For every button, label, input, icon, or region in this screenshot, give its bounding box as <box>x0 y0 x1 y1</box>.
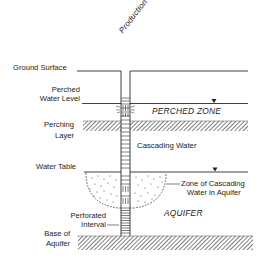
perched-water-level-label-line2: Water Level <box>20 95 80 104</box>
water-table-marker-icon <box>213 168 218 172</box>
perched-zone-label: PERCHED ZONE <box>152 107 221 116</box>
ground-surface-label: Ground Surface <box>13 64 67 73</box>
zone-of-cascading-water-label-line2: Water in Aquifer <box>181 189 245 198</box>
perching-layer <box>83 121 248 131</box>
base-of-aquifer-label-line2: Aquifer <box>20 240 70 249</box>
water-table-label: Water Table <box>36 163 76 172</box>
zone-of-cascading-water-label: Zone of Cascading Water in Aquifer <box>181 180 245 197</box>
aquifer-label: AQUIFER <box>164 209 203 218</box>
perching-layer-label-line1: Perching <box>20 121 74 130</box>
cascading-water-label: Cascading Water <box>137 142 197 151</box>
perching-layer-label-line2: Layer <box>20 132 74 141</box>
zone-of-cascading-water <box>86 173 166 208</box>
production-well <box>116 71 135 236</box>
perforated-interval-label: Perforated Interval <box>40 212 106 229</box>
perched-water-level-label: Perched Water Level <box>20 86 80 103</box>
perforated-interval-label-line2: Interval <box>40 221 106 230</box>
base-of-aquifer-label-line1: Base of <box>20 230 70 239</box>
perching-layer-label: Perching Layer <box>20 121 74 140</box>
base-of-aquifer-label: Base of Aquifer <box>20 230 70 248</box>
base-of-aquifer-layer <box>78 236 253 250</box>
perched-water-level-marker-icon <box>212 99 217 103</box>
